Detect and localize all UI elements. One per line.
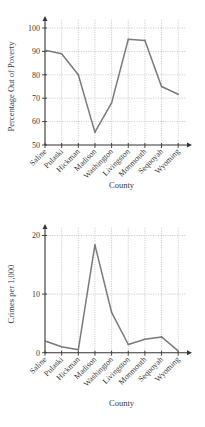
y-tick-label: 60 (32, 117, 40, 126)
y-tick-label: 70 (32, 94, 40, 103)
data-point (44, 340, 46, 342)
data-point (94, 244, 96, 246)
x-axis-arrow (187, 350, 192, 355)
data-point (177, 93, 179, 95)
data-point (111, 102, 113, 104)
data-point (161, 336, 163, 338)
y-tick-label: 80 (32, 71, 40, 80)
y-tick-label: 90 (32, 47, 40, 56)
data-point (127, 344, 129, 346)
y-axis-title: Crimes per 1,000 (6, 265, 16, 324)
data-point (78, 349, 80, 351)
y-tick-label: 100 (28, 24, 40, 33)
y-axis-arrow (43, 16, 48, 21)
x-axis-arrow (187, 143, 192, 148)
y-axis-title: Percentage Out of Poverty (6, 41, 16, 132)
data-point (44, 49, 46, 51)
y-tick-label: 10 (32, 290, 40, 299)
data-point (144, 40, 146, 42)
poverty-chart: 5060708090100SalinePulaskiHickmanMadison… (6, 16, 192, 190)
data-point (94, 131, 96, 133)
y-tick-label: 20 (32, 231, 40, 240)
data-point (177, 350, 179, 352)
y-tick-label: 50 (32, 141, 40, 150)
data-point (61, 346, 63, 348)
data-point (127, 38, 129, 40)
y-axis-arrow (43, 224, 48, 229)
y-tick-label: 0 (36, 349, 40, 358)
data-point (78, 74, 80, 76)
data-point (61, 53, 63, 55)
crime-chart: 01020SalinePulaskiHickmanMadisonWashingt… (6, 224, 192, 408)
x-axis-title: County (109, 180, 135, 190)
data-point (144, 338, 146, 340)
x-axis-title: County (109, 398, 135, 408)
chart-canvas: 5060708090100SalinePulaskiHickmanMadison… (0, 0, 205, 427)
data-point (111, 311, 113, 313)
data-point (161, 86, 163, 88)
